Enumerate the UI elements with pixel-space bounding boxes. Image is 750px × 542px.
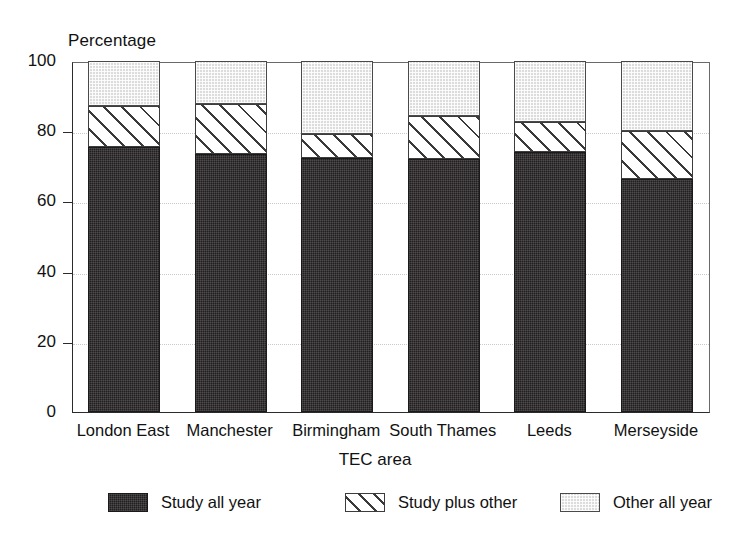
- y-axis-tick-mark: [63, 343, 72, 344]
- bar-segment: [88, 147, 160, 412]
- bar-segment: [301, 134, 373, 158]
- y-axis-tick-mark: [63, 273, 72, 274]
- bar-segment: [408, 116, 480, 159]
- legend-swatch-light: [560, 493, 600, 512]
- bar-stack: [514, 61, 586, 412]
- bar-stack: [621, 61, 693, 412]
- bar-segment: [514, 152, 586, 412]
- y-axis-tick-label: 0: [2, 402, 56, 422]
- plot-area: [72, 62, 710, 413]
- gridline: [73, 344, 709, 345]
- y-axis-tick-label: 40: [2, 262, 56, 282]
- chart-figure: Percentage 020406080100 London EastManch…: [0, 0, 750, 542]
- bar-segment: [621, 131, 693, 179]
- legend-label: Study all year: [161, 493, 261, 512]
- legend-swatch-hatch: [345, 493, 385, 512]
- bar-segment: [195, 61, 267, 104]
- bar-segment: [514, 122, 586, 152]
- bar-segment: [301, 158, 373, 412]
- legend-item[interactable]: Study plus other: [345, 487, 517, 517]
- legend-swatch-dark: [108, 493, 148, 512]
- x-axis-title: TEC area: [0, 450, 750, 470]
- bar-segment: [621, 179, 693, 412]
- bar-segment: [195, 104, 267, 154]
- legend-item[interactable]: Study all year: [108, 487, 261, 517]
- legend-label: Study plus other: [398, 493, 517, 512]
- y-axis-tick-label: 80: [2, 121, 56, 141]
- bar-stack: [408, 61, 480, 412]
- bar-stack: [88, 61, 160, 412]
- y-axis-tick-label: 100: [2, 51, 56, 71]
- legend-item[interactable]: Other all year: [560, 487, 712, 517]
- bar-segment: [408, 61, 480, 116]
- bar-stack: [301, 61, 373, 412]
- bar-segment: [88, 61, 160, 106]
- y-axis-title: Percentage: [68, 31, 156, 51]
- gridline: [73, 274, 709, 275]
- chart-legend: Study all yearStudy plus otherOther all …: [0, 487, 750, 527]
- x-axis-tick-label: Merseyside: [566, 421, 746, 440]
- y-axis-tick-label: 20: [2, 332, 56, 352]
- legend-label: Other all year: [613, 493, 712, 512]
- bar-segment: [621, 61, 693, 131]
- gridline: [73, 203, 709, 204]
- y-axis-tick-mark: [63, 132, 72, 133]
- y-axis-tick-label: 60: [2, 191, 56, 211]
- gridline: [73, 133, 709, 134]
- bar-segment: [88, 106, 160, 147]
- bar-segment: [301, 61, 373, 134]
- bar-segment: [195, 154, 267, 412]
- y-axis-tick-mark: [63, 202, 72, 203]
- bar-segment: [408, 159, 480, 412]
- bar-segment: [514, 61, 586, 122]
- bar-stack: [195, 61, 267, 412]
